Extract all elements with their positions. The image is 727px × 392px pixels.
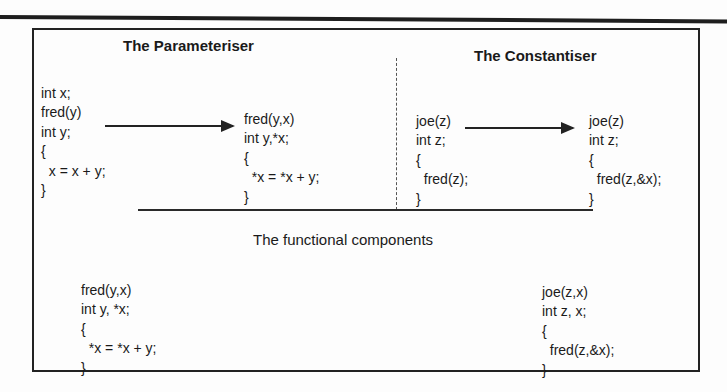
constantiser-title: The Constantiser [474,47,597,64]
code-line: int y, *x; [81,300,156,320]
code-line: *x = *x + y; [81,339,156,359]
section-divider-vertical [396,58,397,210]
code-line: x = x + y; [41,162,106,182]
code-line: { [244,149,319,169]
code-line: joe(z) [589,112,661,132]
code-line: int x; [41,84,106,104]
code-line: fred(z); [416,170,468,190]
code-line: } [81,359,156,379]
parameteriser-after-code: fred(y,x)int y,*x;{ *x = *x + y;} [244,90,319,227]
parameteriser-title: The Parameteriser [123,37,254,54]
code-line: int z, x; [542,302,614,322]
code-line: *x = *x + y; [244,168,319,188]
code-line: fred(y,x) [81,281,156,301]
right-arrow-icon [105,125,233,127]
code-line: { [41,142,106,162]
code-line: fred(z,&x); [589,170,661,190]
code-line: } [244,188,319,208]
code-line: int y; [41,123,106,143]
code-line: } [542,361,614,381]
code-line: fred(y,x) [244,110,319,130]
code-line: } [589,190,661,210]
code-line: int y,*x; [244,129,319,149]
code-line: { [542,322,614,342]
code-line: { [589,151,661,171]
section-divider-horizontal [138,209,593,211]
constantiser-after-code: joe(z)int z;{ fred(z,&x);} [589,92,661,229]
code-line: fred(z,&x); [542,341,614,361]
code-line: int z; [416,131,468,151]
code-line: } [41,181,106,201]
code-line: { [416,151,468,171]
code-line: fred(y) [41,103,106,123]
code-line: { [81,320,156,340]
top-rule [0,15,727,23]
functional-components-title: The functional components [253,231,433,248]
right-arrow-icon [465,127,573,129]
code-line: } [416,190,468,210]
code-line: joe(z,x) [542,283,614,303]
parameteriser-before-code: int x;fred(y)int y;{ x = x + y;} [41,64,106,220]
code-line: joe(z) [416,112,468,132]
constantiser-before-code: joe(z)int z;{ fred(z);} [416,92,468,229]
code-line: int z; [589,131,661,151]
functional-left-code: fred(y,x)int y, *x;{ *x = *x + y;} [81,261,156,392]
functional-right-code: joe(z,x)int z, x;{ fred(z,&x);} [542,263,614,392]
